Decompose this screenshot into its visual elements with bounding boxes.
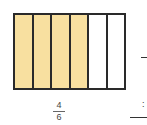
bar-segment-3 (52, 15, 71, 88)
fraction-denominator: 6 (52, 113, 66, 122)
bar-segment-6 (108, 15, 125, 88)
partial-dash (141, 57, 147, 58)
bar-segment-5 (89, 15, 108, 88)
bar-segment-2 (34, 15, 53, 88)
partial-colon: : (142, 100, 145, 109)
bar-segment-1 (15, 15, 34, 88)
fraction-bar (13, 13, 126, 90)
bar-segment-4 (71, 15, 90, 88)
fraction-numerator: 4 (52, 101, 66, 110)
fraction-label: 4 6 (52, 101, 66, 122)
partial-underline (130, 117, 147, 118)
